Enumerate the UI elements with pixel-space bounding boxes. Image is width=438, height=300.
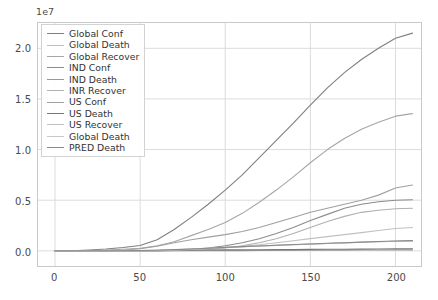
legend-item[interactable]: US Death — [45, 108, 139, 119]
legend-item-label: INR Recover — [69, 85, 126, 96]
y-axis-tick-label: 2.0 — [15, 42, 31, 53]
legend-color-swatch — [47, 90, 64, 91]
y-axis-offset-label: 1e7 — [36, 6, 54, 17]
y-axis-tick-label: 0.0 — [15, 246, 31, 257]
y-axis-tick-labels: 0.00.51.01.52.0 — [0, 22, 31, 267]
y-axis-tick-label: 1.0 — [15, 144, 31, 155]
legend-item-label: Global Recover — [69, 51, 139, 62]
legend-item-label: PRED Death — [69, 142, 125, 153]
x-axis-tick-label: 150 — [301, 272, 320, 283]
series-line — [55, 200, 412, 251]
legend-color-swatch — [47, 67, 64, 68]
y-axis-tick-label: 1.5 — [15, 93, 31, 104]
x-axis-tick-label: 100 — [216, 272, 235, 283]
x-axis-tick-label: 50 — [133, 272, 146, 283]
chart-figure: 1e7 0.00.51.01.52.0 050100150200 Global … — [0, 0, 438, 300]
x-axis-tick-label: 0 — [51, 272, 57, 283]
chart-legend[interactable]: Global ConfGlobal DeathGlobal RecoverIND… — [41, 24, 145, 157]
legend-color-swatch — [47, 124, 64, 125]
legend-color-swatch — [47, 102, 64, 103]
legend-color-swatch — [47, 56, 64, 57]
legend-item[interactable]: Global Death — [45, 131, 139, 142]
legend-item-label: US Conf — [69, 96, 106, 107]
y-axis-tick-label: 0.5 — [15, 195, 31, 206]
legend-item-label: US Death — [69, 108, 113, 119]
legend-item[interactable]: IND Death — [45, 74, 139, 85]
legend-color-swatch — [47, 33, 64, 34]
legend-item[interactable]: Global Conf — [45, 28, 139, 39]
legend-item[interactable]: US Conf — [45, 96, 139, 107]
legend-item-label: Global Conf — [69, 28, 123, 39]
legend-item[interactable]: IND Conf — [45, 62, 139, 73]
legend-item-label: Global Death — [69, 39, 130, 50]
legend-color-swatch — [47, 45, 64, 46]
legend-item[interactable]: PRED Death — [45, 142, 139, 153]
legend-item[interactable]: INR Recover — [45, 85, 139, 96]
x-axis-tick-labels: 050100150200 — [37, 272, 422, 288]
legend-item-label: IND Conf — [69, 62, 110, 73]
legend-color-swatch — [47, 113, 64, 114]
legend-item-label: US Recover — [69, 119, 122, 130]
legend-item[interactable]: Global Recover — [45, 51, 139, 62]
legend-item[interactable]: US Recover — [45, 119, 139, 130]
legend-item-label: Global Death — [69, 131, 130, 142]
legend-color-swatch — [47, 136, 64, 137]
legend-item[interactable]: Global Death — [45, 39, 139, 50]
x-axis-tick-label: 200 — [387, 272, 406, 283]
legend-color-swatch — [47, 147, 64, 148]
legend-item-label: IND Death — [69, 74, 117, 85]
legend-color-swatch — [47, 79, 64, 80]
